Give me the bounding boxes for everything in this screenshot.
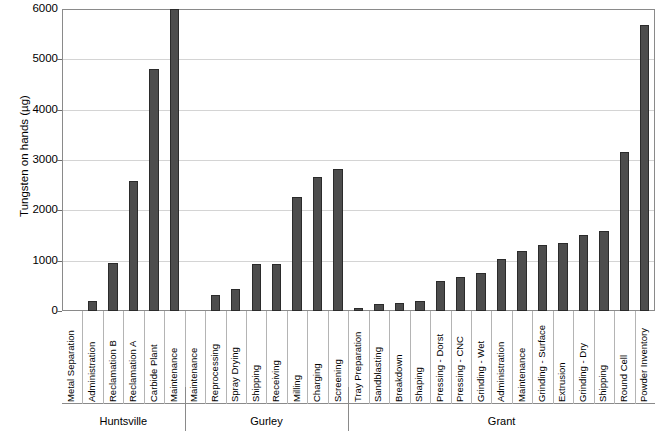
category-label: Shaping	[414, 367, 424, 402]
bar	[436, 281, 445, 311]
category-tick-cell: Milling	[287, 311, 307, 404]
bar	[292, 197, 301, 311]
bar	[497, 259, 506, 311]
category-tick-cell: Receiving	[266, 311, 286, 404]
group-label: Grant	[488, 415, 516, 427]
category-axis: Metal SeparationAdministrationReclamatio…	[62, 311, 655, 404]
category-tick-cell: Pressing - CNC	[451, 311, 471, 404]
category-label: Grinding - Surface	[537, 325, 547, 402]
y-tick-label: 1000	[6, 255, 58, 266]
category-tick-cell: Screening	[328, 311, 348, 404]
category-label: Grinding - Wet	[476, 341, 486, 402]
bar	[211, 295, 220, 311]
category-tick-cell: Maintenance	[164, 311, 184, 404]
bar	[272, 264, 281, 311]
category-label: Reprocessing	[210, 344, 220, 402]
bar	[538, 245, 547, 311]
category-tick-cell: Maintenance	[185, 311, 205, 404]
y-tick-label: 6000	[6, 3, 58, 14]
group-label: Gurley	[250, 415, 282, 427]
group-axis: HuntsvilleGurleyGrant	[62, 404, 655, 443]
bar	[129, 181, 138, 311]
category-tick-cell: Administration	[491, 311, 511, 404]
category-tick-cell: Grinding - Surface	[532, 311, 552, 404]
category-label: Administration	[496, 342, 506, 402]
bar	[108, 263, 117, 311]
category-tick-cell: Sandblasting	[369, 311, 389, 404]
category-label: Breakdown	[394, 354, 404, 402]
bar	[456, 277, 465, 311]
category-tick-cell: Grinding - Dry	[573, 311, 593, 404]
category-label: Sandblasting	[373, 347, 383, 402]
y-tick-label: 2000	[6, 204, 58, 215]
category-tick-cell: Reclamation A	[123, 311, 143, 404]
category-label: Maintenance	[517, 348, 527, 402]
category-label: Charging	[312, 363, 322, 402]
group-label: Huntsville	[100, 415, 148, 427]
category-tick-cell: Administration	[82, 311, 102, 404]
category-tick-cell: Pressing - Dorst	[430, 311, 450, 404]
category-tick-cell: Shaping	[410, 311, 430, 404]
group-cell: Huntsville	[62, 404, 185, 437]
bar	[579, 235, 588, 312]
category-tick-cell: Reprocessing	[205, 311, 225, 404]
bar	[599, 231, 608, 311]
bar-chart: Tungsten on hands (µg) 60005000400030002…	[0, 0, 658, 443]
category-label: Maintenance	[189, 348, 199, 402]
category-label: Pressing - CNC	[455, 336, 465, 402]
category-label: Pressing - Dorst	[435, 334, 445, 402]
category-tick-cell: Spray Drying	[226, 311, 246, 404]
category-tick-cell: Charging	[307, 311, 327, 404]
category-tick-cell: Round Cell	[614, 311, 634, 404]
bar	[620, 152, 629, 311]
bar	[252, 264, 261, 311]
category-label: Maintenance	[169, 348, 179, 402]
category-label: Receiving	[271, 360, 281, 402]
category-label: Spray Drying	[230, 347, 240, 402]
category-label: Milling	[292, 375, 302, 402]
bar	[395, 303, 404, 311]
bar	[313, 177, 322, 311]
bar	[558, 243, 567, 311]
category-label: Reclamation B	[108, 340, 118, 402]
category-label: Carbide Plant	[149, 344, 159, 402]
category-tick-cell: Shipping	[246, 311, 266, 404]
category-label: Shipping	[598, 365, 608, 402]
category-label: Metal Separation	[66, 330, 76, 402]
group-separator	[348, 387, 349, 431]
category-tick-cell: Breakdown	[389, 311, 409, 404]
category-tick-cell: Grinding - Wet	[471, 311, 491, 404]
category-tick-cell: Reclamation B	[103, 311, 123, 404]
category-tick-cell: Shipping	[594, 311, 614, 404]
category-label: Screening	[333, 359, 343, 402]
group-cell: Grant	[348, 404, 655, 437]
y-tick-label: 3000	[6, 154, 58, 165]
group-separator	[185, 387, 186, 431]
category-label: Reclamation A	[128, 341, 138, 402]
bar	[333, 169, 342, 311]
bar	[517, 251, 526, 311]
bars-layer	[62, 9, 655, 311]
category-tick-cell: Maintenance	[512, 311, 532, 404]
category-label: Powder Inventory	[639, 328, 649, 402]
category-label: Round Cell	[619, 355, 629, 402]
category-tick-cell: Carbide Plant	[144, 311, 164, 404]
bar	[231, 289, 240, 311]
bar	[149, 69, 158, 311]
y-tick-label: 4000	[6, 104, 58, 115]
category-tick-cell: Powder Inventory	[635, 311, 655, 404]
bar	[415, 301, 424, 311]
bar	[640, 25, 649, 311]
category-tick-cell: Metal Separation	[62, 311, 82, 404]
bar	[88, 301, 97, 311]
y-tick-label: 0	[6, 305, 58, 316]
bar	[476, 273, 485, 311]
category-label: Administration	[87, 342, 97, 402]
bar	[170, 9, 179, 311]
category-tick-cell: Tray Preparation	[348, 311, 368, 404]
category-label: Extrusion	[557, 362, 567, 402]
category-label: Shipping	[251, 365, 261, 402]
category-label: Grinding - Dry	[578, 343, 588, 402]
category-tick-cell: Extrusion	[553, 311, 573, 404]
category-label: Tray Preparation	[353, 332, 363, 402]
